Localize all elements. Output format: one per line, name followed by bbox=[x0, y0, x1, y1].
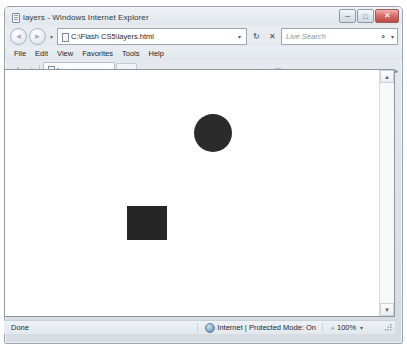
close-button[interactable]: ✕ bbox=[375, 9, 399, 23]
scroll-down-icon: ▼ bbox=[384, 307, 390, 313]
stop-icon: ✕ bbox=[269, 33, 276, 41]
security-zone-label: Internet | Protected Mode: On bbox=[217, 323, 316, 332]
address-dropdown-caret-icon[interactable]: ▾ bbox=[234, 33, 245, 40]
search-icon[interactable]: ⌕ bbox=[378, 32, 388, 42]
status-bar: Done Internet | Protected Mode: On ⌕ 100… bbox=[4, 320, 395, 334]
menu-item-favorites[interactable]: Favorites bbox=[82, 49, 113, 58]
page-favicon-icon bbox=[61, 33, 69, 41]
scroll-up-button[interactable]: ▲ bbox=[380, 70, 394, 83]
address-bar[interactable]: C:\Flash CS5\layers.html ▾ bbox=[57, 28, 247, 45]
status-text: Done bbox=[4, 323, 197, 332]
refresh-icon: ↻ bbox=[253, 33, 260, 41]
navigation-bar: ◄ ► ▾ C:\Flash CS5\layers.html ▾ ↻ ✕ Liv… bbox=[5, 25, 402, 47]
menu-bar: File Edit View Favorites Tools Help bbox=[5, 47, 402, 60]
minimize-icon: ─ bbox=[340, 10, 355, 22]
zoom-level-label: 100% bbox=[337, 323, 356, 332]
scrollbar-track[interactable] bbox=[380, 83, 394, 303]
close-icon: ✕ bbox=[376, 10, 398, 22]
search-provider-caret-icon[interactable]: ▾ bbox=[388, 33, 396, 40]
forward-arrow-icon: ► bbox=[30, 29, 45, 44]
forward-button[interactable]: ► bbox=[29, 28, 46, 45]
vertical-scrollbar[interactable]: ▲ ▼ bbox=[379, 70, 394, 316]
search-input[interactable]: Live Search bbox=[286, 32, 378, 41]
globe-icon bbox=[205, 323, 215, 333]
back-arrow-icon: ◄ bbox=[11, 29, 26, 44]
menu-item-view[interactable]: View bbox=[57, 49, 73, 58]
page-canvas bbox=[5, 70, 379, 316]
address-input[interactable]: C:\Flash CS5\layers.html bbox=[71, 32, 234, 41]
maximize-icon: □ bbox=[358, 10, 373, 22]
square-shape bbox=[127, 206, 167, 240]
circle-shape bbox=[194, 114, 232, 152]
recent-pages-caret-icon[interactable]: ▾ bbox=[48, 33, 55, 40]
zoom-caret-icon[interactable]: ▾ bbox=[360, 324, 363, 331]
window-title: layers - Windows Internet Explorer bbox=[23, 13, 149, 22]
menu-item-help[interactable]: Help bbox=[149, 49, 164, 58]
menu-item-file[interactable]: File bbox=[14, 49, 26, 58]
refresh-button[interactable]: ↻ bbox=[249, 29, 263, 44]
security-zone-indicator[interactable]: Internet | Protected Mode: On bbox=[197, 323, 322, 333]
zoom-icon: ⌕ bbox=[331, 324, 335, 332]
title-bar: layers - Windows Internet Explorer ─ □ ✕ bbox=[5, 7, 402, 25]
search-box[interactable]: Live Search ⌕ ▾ bbox=[281, 28, 398, 45]
scroll-up-icon: ▲ bbox=[384, 74, 390, 80]
window-document-icon bbox=[11, 13, 20, 22]
maximize-button[interactable]: □ bbox=[357, 9, 374, 23]
menu-item-edit[interactable]: Edit bbox=[35, 49, 48, 58]
minimize-button[interactable]: ─ bbox=[339, 9, 356, 23]
window-controls: ─ □ ✕ bbox=[339, 9, 399, 23]
menu-item-tools[interactable]: Tools bbox=[122, 49, 140, 58]
stop-button[interactable]: ✕ bbox=[265, 29, 279, 44]
page-content-area: ▲ ▼ bbox=[4, 69, 395, 317]
scroll-down-button[interactable]: ▼ bbox=[380, 303, 394, 316]
resize-grip[interactable] bbox=[383, 323, 393, 333]
back-button[interactable]: ◄ bbox=[10, 28, 27, 45]
